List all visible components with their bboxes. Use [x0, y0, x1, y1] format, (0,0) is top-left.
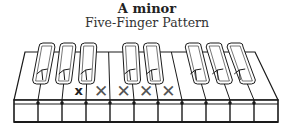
finger-mark: ✕: [139, 81, 153, 101]
black-key[interactable]: [79, 43, 97, 84]
finger-mark: ✕: [161, 81, 175, 101]
finger-mark: ✕: [116, 81, 130, 101]
finger-mark: ✕: [94, 81, 108, 101]
black-key[interactable]: [123, 43, 141, 84]
root-note-mark: x: [74, 83, 83, 98]
piano-keyboard: x✕✕✕✕: [0, 0, 294, 133]
